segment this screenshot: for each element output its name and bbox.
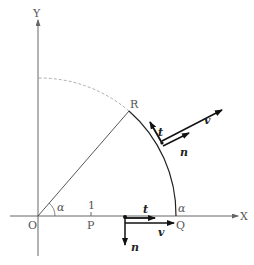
diagram: Y X O R P Q 1 α α t n v t v n [0,0,254,265]
point-p-label: P [87,219,95,232]
vector-t-upper-label: t [158,126,163,139]
vector-v-upper-label: v [204,114,211,127]
point-q-label: Q [176,219,185,232]
vector-v-upper [162,110,222,141]
dashed-arc [38,78,129,111]
vector-n-upper-label: n [180,146,188,159]
vector-n-lower-label: n [131,241,139,254]
vector-n-upper [163,133,189,146]
radius-or [38,111,129,216]
vector-t-lower-label: t [143,203,148,216]
angle-arc-origin [49,203,55,216]
angle-alpha-origin-label: α [57,201,65,214]
origin-label: O [28,219,37,232]
angle-alpha-q-label: α [178,202,186,215]
x-axis-label: X [240,210,248,223]
y-axis-label: Y [32,7,41,20]
point-r-label: R [130,98,139,111]
vector-v-lower-label: v [158,226,165,239]
tick-one-label: 1 [88,199,95,212]
